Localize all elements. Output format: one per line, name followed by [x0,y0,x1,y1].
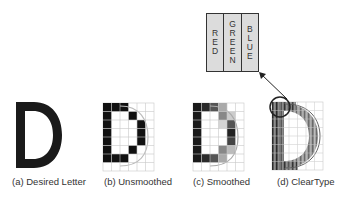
label-unsmoothed: (b) Unsmoothed [104,176,172,187]
cleartype-bitmap [270,97,323,170]
font-smoothing-diagram: R E D G R E E N B L U E (a) Desired Lett… [0,0,347,198]
label-smoothed: (c) Smoothed [193,176,250,187]
subpixel-green: G R E E N [224,14,241,71]
label-cleartype: (d) ClearType [277,176,335,187]
subpixel-callout: R E D G R E E N B L U E [206,13,259,72]
desired-letter-glyph [16,102,62,168]
subpixel-red: R E D [207,14,224,71]
callout-arrow [259,72,287,99]
unsmoothed-bitmap [103,103,154,171]
smoothed-bitmap [193,103,244,171]
label-desired-letter: (a) Desired Letter [12,176,86,187]
diagram-canvas [0,0,347,198]
subpixel-blue: B L U E [242,14,258,71]
